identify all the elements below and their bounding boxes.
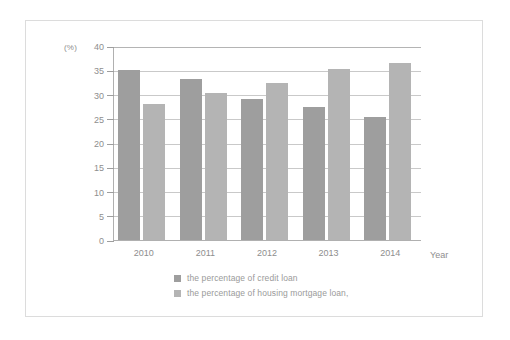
legend-item-housing-mortgage-loan: the percentage of housing mortgage loan, bbox=[174, 288, 348, 298]
y-axis-tick-label: 40 bbox=[94, 42, 104, 52]
x-axis-line bbox=[113, 240, 421, 241]
bar-group: 2011 bbox=[175, 46, 237, 240]
legend-item-credit-loan: the percentage of credit loan bbox=[174, 273, 348, 283]
bar-group: 2014 bbox=[359, 46, 421, 240]
bar-housing-mortgage-loan bbox=[205, 93, 227, 240]
x-axis-tick-label: 2011 bbox=[175, 248, 235, 258]
plot-area: 051015202530354020102011201220132014 bbox=[113, 47, 421, 241]
y-axis-unit-label: (%) bbox=[64, 43, 77, 52]
x-axis-tick-label: 2010 bbox=[114, 248, 174, 258]
bar-housing-mortgage-loan bbox=[143, 104, 165, 240]
y-axis-tick-label: 15 bbox=[94, 163, 104, 173]
y-axis-tick-label: 25 bbox=[94, 115, 104, 125]
bar-chart: (%) 051015202530354020102011201220132014… bbox=[26, 21, 484, 318]
bar-group: 2013 bbox=[298, 46, 360, 240]
page-frame: (%) 051015202530354020102011201220132014… bbox=[25, 20, 483, 317]
chart-legend: the percentage of credit loan the percen… bbox=[174, 273, 348, 303]
bar-housing-mortgage-loan bbox=[328, 69, 350, 240]
y-axis-tick-label: 5 bbox=[99, 212, 104, 222]
y-axis-tick-label: 20 bbox=[94, 139, 104, 149]
legend-label-credit-loan: the percentage of credit loan bbox=[187, 273, 298, 283]
bar-group: 2010 bbox=[113, 46, 175, 240]
legend-label-housing-mortgage-loan: the percentage of housing mortgage loan, bbox=[187, 288, 348, 298]
x-axis-tick-label: 2014 bbox=[360, 248, 420, 258]
legend-swatch-icon-housing-mortgage-loan bbox=[174, 290, 181, 297]
bar-credit-loan bbox=[364, 117, 386, 240]
y-axis-tick-label: 10 bbox=[94, 188, 104, 198]
bar-credit-loan bbox=[303, 107, 325, 240]
bar-credit-loan bbox=[241, 99, 263, 240]
bar-credit-loan bbox=[180, 79, 202, 241]
y-axis-tick-label: 30 bbox=[94, 91, 104, 101]
bar-housing-mortgage-loan bbox=[266, 83, 288, 240]
x-axis-tick-label: 2013 bbox=[299, 248, 359, 258]
bar-credit-loan bbox=[118, 70, 140, 240]
y-axis-tick-label: 35 bbox=[94, 66, 104, 76]
bar-housing-mortgage-loan bbox=[389, 63, 411, 240]
bar-group: 2012 bbox=[236, 46, 298, 240]
legend-swatch-icon-credit-loan bbox=[174, 275, 181, 282]
y-axis-tick bbox=[107, 241, 114, 242]
x-axis-tick-label: 2012 bbox=[237, 248, 297, 258]
y-axis-tick-label: 0 bbox=[99, 236, 104, 246]
x-axis-title: Year bbox=[430, 250, 448, 260]
